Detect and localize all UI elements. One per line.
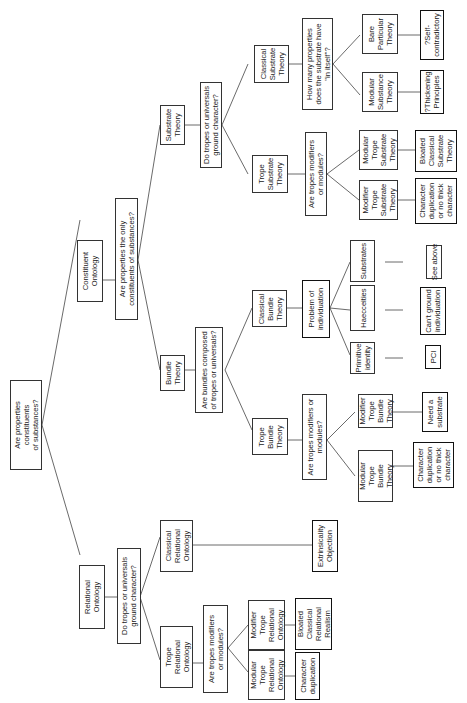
node-label: Modular Trope Bundle Theory <box>358 462 394 489</box>
node-label: Classical Relational Ontology <box>163 529 190 563</box>
need-substrate-node: Need a substrate <box>422 392 448 432</box>
node-label: Substrates <box>358 243 367 279</box>
bloated-classical-substrate-node: Bloated Classical Substrate Theory <box>415 130 457 172</box>
node-label: Are properties the only constituents of … <box>118 212 136 306</box>
modular-trope-bundle-node: Modular Trope Bundle Theory <box>358 450 393 502</box>
substrate-theory-node: Substrate Theory <box>160 105 185 145</box>
node-label: Bare Particular Theory <box>367 18 394 50</box>
modifier-trope-bundle-node: Modifier Trope Bundle Theory <box>358 394 393 428</box>
root-question-node: Are properties constituents of substance… <box>10 380 42 470</box>
node-label: Relational Ontology <box>83 580 101 614</box>
pci-node: PCI <box>425 345 441 369</box>
modifier-trope-substrate-node: Modifier Trope Substrate Theory <box>359 180 398 220</box>
node-label: PCI <box>429 351 438 364</box>
node-label: Primitive identity <box>354 343 372 372</box>
classical-bundle-theory-node: Classical Bundle Theory <box>252 290 287 327</box>
node-label: Modular Substance Theory <box>367 74 394 110</box>
node-label: Substrate Theory <box>164 109 182 142</box>
classical-substrate-theory-node: Classical Substrate Theory <box>254 45 289 83</box>
node-label: Are tropes modifiers or modules? <box>207 615 225 683</box>
node-label: Problem of individuation <box>307 288 325 330</box>
node-label: ?Thickening Principles <box>423 72 441 113</box>
bundle-modifiers-question-node: Are tropes modifiers or modules? <box>302 394 327 480</box>
character-duplication-substrate-node: Character duplication or no thick charac… <box>415 178 457 224</box>
only-constituents-question-node: Are properties the only constituents of … <box>115 198 138 320</box>
modifier-trope-relational-node: Modifier Trope Relational Ontology <box>248 600 285 650</box>
node-label: Bloated Classical Relational Realism <box>296 607 332 641</box>
modular-substance-theory-node: Modular Substance Theory <box>362 72 398 112</box>
node-label: Are bundles composed of tropes or univer… <box>200 331 218 410</box>
node-label: See above <box>430 244 439 280</box>
node-label: Trope Relational Ontology <box>163 640 190 674</box>
trope-bundle-theory-node: Trope Bundle Theory <box>252 418 288 455</box>
node-label: Haecceities <box>358 288 367 327</box>
primitive-identity-node: Primitive identity <box>350 342 375 374</box>
node-label: Are tropes modifiers or modules? <box>307 140 325 208</box>
node-label: How many properties does the substrate h… <box>304 23 331 104</box>
node-label: Trope Substrate Theory <box>257 158 284 191</box>
node-label: Do tropes or universals ground character… <box>202 86 220 164</box>
node-label: Character duplication or no thick charac… <box>416 447 452 483</box>
node-label: Classical Bundle Theory <box>256 293 283 323</box>
substrate-modifiers-question-node: Are tropes modifiers or modules? <box>305 132 327 216</box>
node-label: Modifier Trope Relational Ontology <box>249 608 285 642</box>
node-label: Character duplication or no thick charac… <box>418 183 454 219</box>
node-label: Modifier Trope Substrate Theory <box>361 184 397 217</box>
relational-ground-question-node: Do tropes or universals ground character… <box>117 548 141 644</box>
node-label: Character duplication <box>299 658 317 694</box>
node-label: Are properties constituents of substance… <box>13 399 40 450</box>
node-label: ?Self- contradictory <box>423 13 441 56</box>
node-label: Need a substrate <box>426 396 444 427</box>
character-duplication-bundle-node: Character duplication or no thick charac… <box>413 442 454 488</box>
bundle-composition-question-node: Are bundles composed of tropes or univer… <box>195 327 223 413</box>
substrate-ground-question-node: Do tropes or universals ground character… <box>200 82 222 168</box>
node-label: Bundle Theory <box>164 361 182 385</box>
node-label: Trope Bundle Theory <box>257 425 284 449</box>
trope-substrate-theory-node: Trope Substrate Theory <box>252 155 288 193</box>
modular-trope-relational-node: Modular Trope Relational Ontology <box>248 650 285 700</box>
bare-particular-theory-node: Bare Particular Theory <box>362 14 398 54</box>
classical-relational-ontology-node: Classical Relational Ontology <box>160 520 193 572</box>
relational-modifiers-question-node: Are tropes modifiers or modules? <box>203 605 228 693</box>
character-duplication-relational-node: Character duplication <box>295 652 320 700</box>
node-label: Modifier Trope Bundle Theory <box>358 397 394 424</box>
node-label: Do tropes or universals ground character… <box>120 557 138 635</box>
node-label: Constituent Ontology <box>81 252 99 290</box>
see-above-node: See above <box>426 245 442 279</box>
trope-relational-ontology-node: Trope Relational Ontology <box>160 626 193 688</box>
self-contradictory-node: ?Self- contradictory <box>420 10 444 60</box>
bloated-classical-relational-node: Bloated Classical Relational Realism <box>295 598 332 650</box>
node-label: Classical Substrate Theory <box>258 48 285 81</box>
node-label: Modular Trope Substrate Theory <box>361 134 397 167</box>
node-label: Modular Trope Relational Ontology <box>249 658 285 692</box>
extrinsicality-objection-node: Extrinsicality Objection <box>312 520 338 572</box>
node-label: Are tropes modifiers or modules? <box>306 399 324 476</box>
substrates-node: Substrates <box>350 240 375 282</box>
bundle-theory-node: Bundle Theory <box>160 355 185 391</box>
constituent-ontology-node: Constituent Ontology <box>77 240 103 302</box>
modular-trope-substrate-node: Modular Trope Substrate Theory <box>359 130 398 170</box>
node-label: Bloated Classical Substrate Theory <box>418 135 454 168</box>
node-label: Extrinsicality Objection <box>316 525 334 567</box>
cant-ground-individuation-node: Can't ground individuation <box>420 287 446 335</box>
node-label: Can't ground individuation <box>424 289 442 332</box>
relational-ontology-node: Relational Ontology <box>79 565 105 629</box>
how-many-properties-question-node: How many properties does the substrate h… <box>302 18 333 110</box>
problem-of-individuation-node: Problem of individuation <box>302 280 330 338</box>
thickening-principles-node: ?Thickening Principles <box>420 70 444 114</box>
haecceities-node: Haecceities <box>350 285 375 331</box>
